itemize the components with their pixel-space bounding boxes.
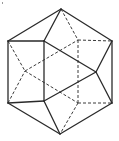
polyhedron-diagram — [0, 0, 119, 141]
hidden-edge-H2-UR — [78, 40, 112, 41]
scan-artifact — [2, 2, 3, 4]
visible-edges — [8, 9, 112, 134]
edge-F1-R — [44, 41, 96, 72]
edge-F2-LL — [8, 101, 44, 103]
hidden-edge-H1-H2 — [25, 40, 78, 71]
edge-LR-B — [60, 103, 112, 134]
edge-F2-R — [44, 72, 96, 101]
edge-T-UR — [61, 9, 112, 41]
hidden-edge-UL-H1 — [8, 41, 25, 71]
edge-R-UR — [96, 41, 112, 72]
edge-R-LR — [96, 72, 112, 103]
hidden-edge-LL-H1 — [8, 71, 25, 103]
